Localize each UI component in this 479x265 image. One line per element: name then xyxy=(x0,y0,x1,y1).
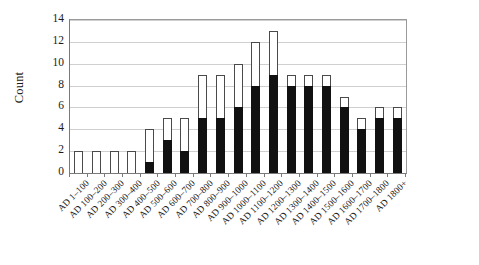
bar-segment-open xyxy=(145,129,154,162)
bar-segment-open xyxy=(234,64,243,108)
bar-slot xyxy=(265,20,283,173)
bar-segment-open xyxy=(92,151,101,173)
x-axis-tick xyxy=(299,173,300,177)
x-axis-tick xyxy=(334,173,335,177)
y-axis-title: Count xyxy=(0,0,40,175)
bar-slot xyxy=(105,20,123,173)
bar-slot xyxy=(88,20,106,173)
bar-segment-filled xyxy=(375,118,384,173)
chart-figure: Count 02468101214 AD 1–100AD 100–200AD 2… xyxy=(0,0,479,265)
bar-segment-open xyxy=(198,75,207,119)
bar[interactable] xyxy=(340,97,349,173)
x-axis-tick xyxy=(370,173,371,177)
bar[interactable] xyxy=(127,151,136,173)
bar[interactable] xyxy=(287,75,296,173)
bar-segment-open xyxy=(216,75,225,119)
bar[interactable] xyxy=(110,151,119,173)
bar[interactable] xyxy=(180,118,189,173)
x-axis-tick xyxy=(210,173,211,177)
bar[interactable] xyxy=(234,64,243,173)
bar-segment-open xyxy=(357,118,366,129)
bar-segment-filled xyxy=(304,86,313,173)
bar[interactable] xyxy=(375,107,384,173)
bar-segment-open xyxy=(375,107,384,118)
bar-segment-open xyxy=(322,75,331,86)
y-axis-tick-label: 14 xyxy=(38,13,64,25)
bar-segment-open xyxy=(74,151,83,173)
bar-segment-filled xyxy=(234,107,243,173)
bar-slot xyxy=(353,20,371,173)
y-axis-tick-label: 4 xyxy=(38,123,64,135)
bar[interactable] xyxy=(163,118,172,173)
bar[interactable] xyxy=(198,75,207,173)
bar-series-group xyxy=(70,20,406,173)
bar-segment-filled xyxy=(393,118,402,173)
bar[interactable] xyxy=(92,151,101,173)
bar-slot xyxy=(141,20,159,173)
x-axis-tick xyxy=(157,173,158,177)
x-axis-tick xyxy=(87,173,88,177)
bar[interactable] xyxy=(251,42,260,173)
bar-segment-filled xyxy=(198,118,207,173)
bar-segment-open xyxy=(110,151,119,173)
bar-segment-open xyxy=(251,42,260,86)
bar-slot xyxy=(194,20,212,173)
bar-slot xyxy=(300,20,318,173)
bar-segment-open xyxy=(393,107,402,118)
x-axis-tick xyxy=(140,173,141,177)
x-axis-tick xyxy=(246,173,247,177)
bar[interactable] xyxy=(393,107,402,173)
bar-segment-filled xyxy=(145,162,154,173)
bar-slot xyxy=(335,20,353,173)
bar-slot xyxy=(318,20,336,173)
bar-slot xyxy=(123,20,141,173)
bar[interactable] xyxy=(357,118,366,173)
x-axis-tick xyxy=(69,173,70,177)
y-axis-tick-label: 10 xyxy=(38,57,64,69)
x-axis-tick xyxy=(281,173,282,177)
x-axis-tick xyxy=(352,173,353,177)
bar-segment-filled xyxy=(357,129,366,173)
bar-segment-open xyxy=(269,31,278,75)
bar[interactable] xyxy=(145,129,154,173)
bar[interactable] xyxy=(74,151,83,173)
bar-slot xyxy=(212,20,230,173)
y-axis-tick-labels: 02468101214 xyxy=(38,12,64,172)
y-axis-tick-label: 12 xyxy=(38,35,64,47)
bar-segment-filled xyxy=(180,151,189,173)
x-axis-tick-labels: AD 1–100AD 100–200AD 200–300AD 300–400AD… xyxy=(69,178,407,263)
bar-slot xyxy=(371,20,389,173)
bar-slot xyxy=(229,20,247,173)
x-axis-tick xyxy=(228,173,229,177)
bar-slot xyxy=(158,20,176,173)
bar-segment-open xyxy=(340,97,349,108)
y-axis-tick-label: 8 xyxy=(38,79,64,91)
bar-segment-open xyxy=(163,118,172,140)
bar-slot xyxy=(70,20,88,173)
x-axis-tick xyxy=(387,173,388,177)
y-axis-title-text: Count xyxy=(13,72,28,104)
y-axis-tick-label: 6 xyxy=(38,101,64,113)
y-axis-tick-label: 2 xyxy=(38,144,64,156)
x-axis-tick xyxy=(193,173,194,177)
y-axis-tick-label: 0 xyxy=(38,166,64,178)
x-axis-tick xyxy=(264,173,265,177)
x-axis-tick xyxy=(405,173,406,177)
bar-segment-open xyxy=(127,151,136,173)
bar-slot xyxy=(247,20,265,173)
x-axis-tick xyxy=(175,173,176,177)
plot-area xyxy=(69,19,407,174)
bar[interactable] xyxy=(304,75,313,173)
bar[interactable] xyxy=(322,75,331,173)
bar-segment-open xyxy=(287,75,296,86)
bar[interactable] xyxy=(269,31,278,173)
bar-segment-filled xyxy=(216,118,225,173)
bar-segment-open xyxy=(180,118,189,151)
x-axis-tick xyxy=(104,173,105,177)
x-axis-tick xyxy=(122,173,123,177)
bar[interactable] xyxy=(216,75,225,173)
x-axis-tick xyxy=(317,173,318,177)
bar-slot xyxy=(388,20,406,173)
bar-segment-filled xyxy=(322,86,331,173)
bar-slot xyxy=(282,20,300,173)
